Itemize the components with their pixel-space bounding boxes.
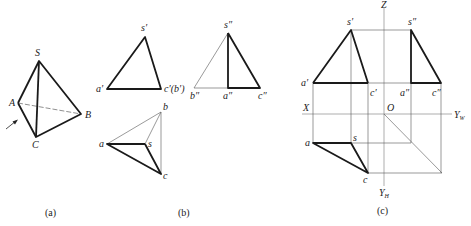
label-c-prime-b-prime: c′(b′) — [164, 83, 185, 95]
figure-b-views: s′ a′ c′(b′) s″ b″ a″ c″ b a s c (b) — [96, 19, 267, 219]
label-s: s — [148, 138, 152, 149]
figure-a-pyramid: S A B C (a) — [6, 47, 91, 219]
view-direction-arrow-icon — [6, 120, 18, 130]
label-YH: YH — [379, 187, 390, 199]
label-B: B — [85, 109, 91, 120]
caption-a: (a) — [45, 207, 56, 219]
label-c: c — [163, 170, 168, 181]
caption-b: (b) — [178, 207, 190, 219]
front-view-triangle — [107, 37, 161, 89]
label-s-prime: s′ — [141, 22, 148, 33]
top-view-thin-ab-bc — [107, 112, 161, 174]
label-b: b — [163, 101, 168, 112]
c-front-view-edges — [313, 30, 368, 83]
label-c-s-double-prime: s″ — [408, 16, 417, 27]
label-c-s: s — [353, 132, 357, 143]
label-a-double-prime: a″ — [223, 90, 233, 101]
label-c-a: a — [305, 137, 310, 148]
label-Z: Z — [381, 0, 387, 10]
label-X: X — [302, 102, 310, 113]
label-A: A — [8, 97, 16, 108]
top-view-thick-edges — [107, 144, 161, 174]
projection-diagram: S A B C (a) s′ a′ c′(b′) s″ b″ a″ c″ b a… — [0, 0, 471, 226]
label-c-c-prime: c′ — [370, 87, 377, 98]
label-a-prime: a′ — [96, 83, 104, 94]
label-c-c: c — [363, 174, 368, 185]
45-degree-line — [384, 114, 442, 173]
c-side-view-triangle — [411, 30, 441, 83]
label-S: S — [35, 47, 40, 58]
label-b-double-prime: b″ — [190, 90, 200, 101]
caption-c: (c) — [377, 205, 388, 217]
label-c-s-prime: s′ — [347, 16, 354, 27]
label-C: C — [32, 139, 39, 150]
label-O: O — [387, 102, 394, 113]
label-a: a — [99, 138, 104, 149]
hidden-edge-ab — [18, 103, 81, 114]
label-c-double-prime: c″ — [258, 90, 267, 101]
side-view-thin-edges — [194, 33, 228, 88]
c-top-view-triangle — [313, 143, 368, 173]
edge-sc — [36, 61, 39, 137]
label-YW: YW — [454, 109, 466, 121]
pyramid-outline — [18, 61, 81, 137]
label-c-a-double-prime: a″ — [400, 87, 410, 98]
label-c-a-prime: a′ — [301, 77, 309, 88]
figure-c-projection: Z X O YW YH s′ a′ c′ s″ a″ c″ a s c (c) — [301, 0, 466, 217]
label-c-c-double-prime: c″ — [432, 87, 441, 98]
side-view-thick-edges — [228, 33, 260, 88]
label-s-double-prime: s″ — [224, 19, 233, 30]
